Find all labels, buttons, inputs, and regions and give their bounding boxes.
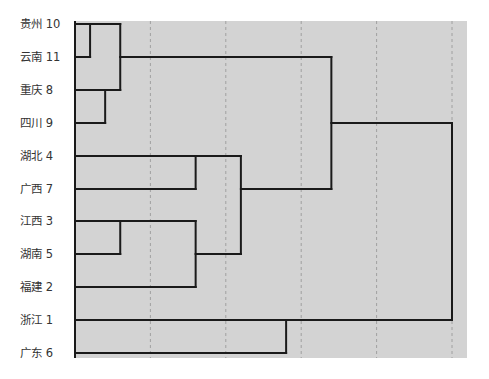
leaf-label: 云南 11 [20,50,60,64]
dendrogram-chart: 贵州 10云南 11重庆 8四川 9湖北 4广西 7江西 3湖南 5福建 2浙江… [0,0,489,379]
leaf-label: 江西 3 [20,214,53,228]
leaf-label: 四川 9 [20,116,53,130]
leaf-label: 贵州 10 [20,17,60,31]
leaf-labels: 贵州 10云南 11重庆 8四川 9湖北 4广西 7江西 3湖南 5福建 2浙江… [20,17,60,360]
leaf-label: 湖南 5 [20,247,53,261]
leaf-label: 广东 6 [20,346,53,360]
leaf-label: 福建 2 [20,280,53,294]
leaf-label: 广西 7 [20,182,53,196]
leaf-label: 重庆 8 [20,83,53,97]
leaf-label: 湖北 4 [20,149,53,163]
leaf-label: 浙江 1 [20,313,53,327]
